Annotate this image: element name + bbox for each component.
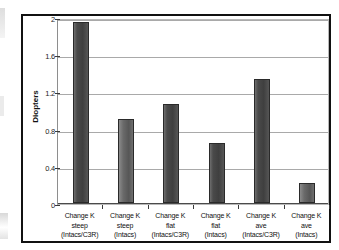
gridline (58, 169, 328, 170)
bar (73, 22, 89, 203)
x-axis-label-line: Change K (280, 211, 333, 221)
x-axis-tick-mark (193, 205, 194, 209)
y-axis-tick-labels: 00.40.81.21.62 (25, 19, 55, 205)
x-axis-tick-mark (238, 205, 239, 209)
x-axis-baseline (58, 203, 328, 204)
bar (118, 119, 134, 203)
chart-figure-frame: Diopters 00.40.81.21.62 Change Ksteep(In… (21, 14, 331, 243)
y-axis-tick-mark (55, 56, 60, 57)
y-axis-tick-mark (55, 205, 60, 206)
x-axis-label-line: ave (280, 221, 333, 231)
gridline (58, 94, 328, 95)
bar (209, 143, 225, 203)
scan-artifact-bottom (0, 213, 8, 239)
scan-artifact-middle (0, 96, 4, 116)
y-axis-tick-mark (55, 168, 60, 169)
x-axis-tick-mark (148, 205, 149, 209)
x-axis-tick-mark (284, 205, 285, 209)
y-axis-tick-label: 0.8 (45, 126, 55, 135)
y-axis-tick-label: 1.6 (45, 52, 55, 61)
y-axis-tick-label: 0.4 (45, 163, 55, 172)
y-axis-tick-label: 1.2 (45, 89, 55, 98)
y-axis-tick-mark (55, 93, 60, 94)
scan-artifact-top (0, 8, 5, 38)
gridline (58, 132, 328, 133)
x-axis-category-labels: Change Ksteep(Intacs/C3R)Change Ksteep(I… (57, 211, 329, 245)
bar (299, 183, 315, 203)
x-axis-tick-mark (329, 205, 330, 209)
x-axis-tick-mark (102, 205, 103, 209)
x-axis-label-line: (Intacs) (280, 230, 333, 240)
plot-area (57, 19, 329, 205)
bar (163, 104, 179, 204)
y-axis-tick-mark (55, 19, 60, 20)
gridline (58, 57, 328, 58)
x-axis-category-label: Change Kave(Intacs) (280, 211, 333, 240)
bar (254, 79, 270, 203)
y-axis-tick-mark (55, 131, 60, 132)
gridline (58, 20, 328, 21)
chart-figure-inner: Diopters 00.40.81.21.62 Change Ksteep(In… (23, 16, 329, 241)
